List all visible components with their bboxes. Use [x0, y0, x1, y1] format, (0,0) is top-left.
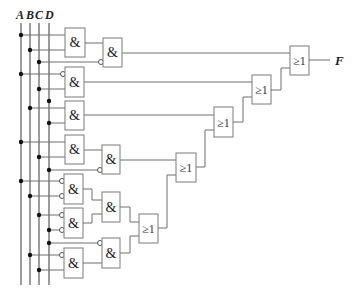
svg-text:&: &: [68, 182, 79, 197]
or-gate-5: ≥1: [290, 46, 309, 75]
junction-dots: [19, 33, 51, 272]
input-wires: [21, 35, 100, 270]
and-gate-3: &: [65, 67, 84, 97]
or-gate-4: ≥1: [252, 75, 271, 104]
svg-text:≥1: ≥1: [217, 116, 230, 130]
input-label-d: D: [44, 8, 54, 22]
output-label-f: F: [334, 53, 344, 68]
or-gate-2: ≥1: [176, 153, 196, 182]
and-gate-2: &: [103, 38, 122, 67]
svg-text:≥1: ≥1: [255, 83, 268, 97]
and-gate-6: &: [102, 145, 120, 174]
svg-text:&: &: [106, 152, 117, 167]
input-label-b: B: [25, 8, 34, 22]
svg-text:≥1: ≥1: [293, 54, 306, 68]
input-label-a: A: [15, 8, 24, 22]
svg-text:&: &: [68, 256, 79, 271]
svg-text:&: &: [69, 108, 80, 123]
svg-text:&: &: [106, 200, 117, 215]
svg-text:&: &: [68, 216, 79, 231]
and-gate-7: &: [64, 174, 83, 204]
svg-text:&: &: [70, 35, 81, 50]
svg-text:≥1: ≥1: [180, 161, 193, 175]
svg-text:≥1: ≥1: [142, 222, 155, 236]
and-gate-10: &: [64, 248, 83, 278]
svg-text:&: &: [69, 75, 80, 90]
logic-circuit-diagram: A B C D: [0, 0, 355, 293]
and-gate-11: &: [102, 238, 120, 268]
svg-text:&: &: [69, 142, 80, 157]
and-gate-9: &: [102, 192, 120, 222]
input-label-c: C: [35, 8, 44, 22]
and-gate-4: &: [65, 101, 84, 130]
or-gate-1: ≥1: [139, 214, 158, 243]
or-gate-3: ≥1: [214, 107, 233, 137]
and-gate-5: &: [65, 135, 84, 164]
svg-text:&: &: [107, 45, 118, 60]
and-gate-8: &: [64, 208, 83, 238]
svg-text:&: &: [106, 246, 117, 261]
and-gate-1: &: [65, 28, 85, 57]
